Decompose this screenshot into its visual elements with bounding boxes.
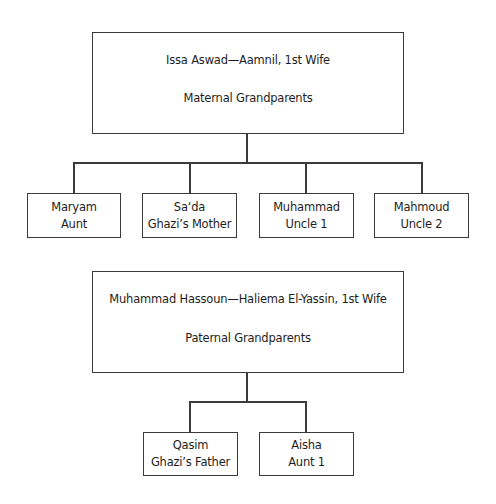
- child-box-maryam: Maryam Aunt: [27, 193, 121, 238]
- maternal-drop-connector-1: [73, 162, 75, 193]
- child-box-aisha: Aisha Aunt 1: [259, 432, 354, 476]
- maternal-drop-connector-2: [189, 162, 191, 193]
- paternal-grandparents-box: Muhammad Hassoun—Haliema El-Yassin, 1st …: [92, 271, 404, 373]
- maternal-trunk-connector: [246, 133, 248, 164]
- paternal-sibling-bus: [189, 401, 307, 403]
- paternal-grandparents-label: Paternal Grandparents: [93, 331, 403, 345]
- child-name: Aisha: [291, 437, 321, 454]
- child-box-qasim: Qasim Ghazi’s Father: [143, 432, 238, 476]
- child-box-mahmoud: Mahmoud Uncle 2: [374, 193, 469, 238]
- child-role: Uncle 1: [286, 216, 328, 233]
- child-role: Aunt 1: [288, 454, 325, 471]
- child-role: Ghazi’s Mother: [148, 216, 232, 233]
- child-name: Qasim: [173, 437, 209, 454]
- child-box-muhammad: Muhammad Uncle 1: [259, 193, 354, 238]
- maternal-couple-names: Issa Aswad—Aamnil, 1st Wife: [93, 53, 403, 67]
- child-role: Ghazi’s Father: [151, 454, 230, 471]
- maternal-drop-connector-3: [305, 162, 307, 193]
- maternal-grandparents-label: Maternal Grandparents: [93, 91, 403, 105]
- paternal-couple-names: Muhammad Hassoun—Haliema El-Yassin, 1st …: [93, 292, 403, 306]
- paternal-trunk-connector: [246, 372, 248, 403]
- child-name: Mahmoud: [394, 199, 450, 216]
- paternal-drop-connector-2: [305, 401, 307, 432]
- maternal-grandparents-box: Issa Aswad—Aamnil, 1st Wife Maternal Gra…: [92, 32, 404, 134]
- maternal-sibling-bus: [73, 162, 423, 164]
- paternal-drop-connector-1: [189, 401, 191, 432]
- child-role: Aunt: [61, 216, 87, 233]
- child-name: Maryam: [51, 199, 97, 216]
- child-name: Sa‘da: [174, 199, 205, 216]
- child-name: Muhammad: [273, 199, 340, 216]
- child-box-sada: Sa‘da Ghazi’s Mother: [142, 193, 237, 238]
- maternal-drop-connector-4: [421, 162, 423, 193]
- child-role: Uncle 2: [401, 216, 443, 233]
